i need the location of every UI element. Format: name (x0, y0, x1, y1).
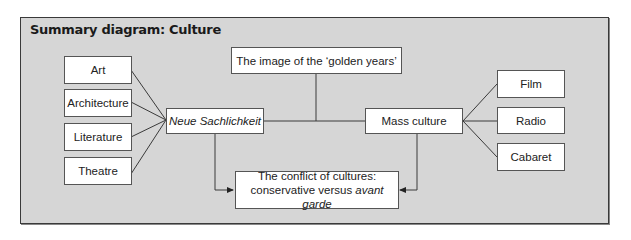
node-label: Mass culture (381, 114, 446, 128)
node-conflict-of-cultures: The conflict of cultures: conservative v… (235, 171, 399, 209)
node-label: Architecture (67, 96, 128, 110)
node-radio: Radio (497, 107, 565, 134)
node-art: Art (64, 56, 132, 84)
node-architecture: Architecture (64, 89, 132, 117)
node-label: Neue Sachlichkeit (169, 114, 261, 128)
node-literature: Literature (64, 123, 132, 151)
node-mass-culture: Mass culture (365, 108, 463, 134)
node-label-line2: conservative versus avant garde (236, 183, 398, 211)
node-neue-sachlichkeit: Neue Sachlichkeit (166, 108, 264, 134)
node-label: Literature (74, 130, 123, 144)
node-label-text: conservative versus (251, 184, 356, 196)
node-cabaret: Cabaret (497, 143, 565, 171)
node-label: Film (520, 77, 542, 91)
node-theatre: Theatre (64, 157, 132, 185)
node-label: Art (91, 63, 106, 77)
node-label: Theatre (78, 164, 118, 178)
node-label-line1: The conflict of cultures: (258, 169, 376, 183)
node-label: Radio (516, 114, 546, 128)
node-golden-years: The image of the ‘golden years’ (231, 47, 402, 74)
node-film: Film (497, 70, 565, 98)
node-label: The image of the ‘golden years’ (236, 54, 396, 68)
node-label: Cabaret (511, 150, 552, 164)
